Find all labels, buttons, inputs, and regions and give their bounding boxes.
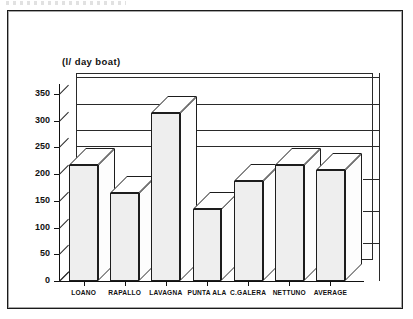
gridline [76,104,374,105]
right-wall-tick [363,104,380,105]
x-axis-line [59,281,364,282]
bar [275,165,304,281]
bar-chart: (l/ day boat) 050100150200250300350 LOAN… [8,11,404,310]
plot-back-wall [76,73,373,260]
x-axis-label: LAVAGNA [136,289,196,296]
x-axis-tick-mark [166,281,167,286]
chart-page: (l/ day boat) 050100150200250300350 LOAN… [0,0,413,319]
y-axis-depth-tick [59,165,69,175]
bar-top-face [316,153,362,170]
chart-title: (l/ day boat) [62,56,121,67]
y-axis-line [59,84,60,282]
x-axis-tick-mark [207,281,208,286]
bar [316,170,345,281]
y-axis-depth-tick [59,112,69,122]
y-axis-depth-tick [59,192,69,202]
bar [69,165,98,281]
x-axis-label: PUNTA ALA [177,289,237,296]
y-axis-tick-label: 100 [16,222,50,232]
bar-side-face [139,176,156,281]
right-wall-tick [363,179,380,180]
bar-top-face [69,148,115,165]
right-wall-tick [363,77,380,78]
bar-side-face [180,96,197,281]
y-axis-tick-mark [54,94,59,95]
y-axis-depth-tick [59,272,69,282]
bar [110,193,139,281]
x-axis-label: RAPALLO [95,289,155,296]
y-axis-tick-label: 0 [16,275,50,285]
x-axis-label: AVERAGE [300,289,360,296]
y-axis-tick-mark [54,121,59,122]
right-wall-tick [363,211,380,212]
right-wall-tick [363,146,380,147]
bar [234,181,263,281]
bar-side-face [304,148,321,281]
y-axis-depth-tick [59,218,69,228]
right-wall [363,73,380,281]
y-axis-tick-label: 350 [16,88,50,98]
bar-side-face [263,164,280,281]
y-axis-tick-label: 250 [16,141,50,151]
y-axis-tick-label: 200 [16,168,50,178]
y-axis-tick-mark [54,281,59,282]
gridline [76,77,374,78]
bar [151,113,180,281]
bar-side-face [221,192,238,281]
x-axis-label: NETTUNO [259,289,319,296]
y-axis-tick-mark [54,174,59,175]
right-wall-edge [379,73,380,281]
bar-top-face [110,176,156,193]
bar-front-face [69,165,98,281]
bar-front-face [316,170,345,281]
x-axis-tick-mark [125,281,126,286]
bar-front-face [193,209,222,281]
y-axis-depth-tick [59,245,69,255]
bar-front-face [275,165,304,281]
bar-front-face [151,113,180,281]
bar-front-face [234,181,263,281]
bar-top-face [275,148,321,165]
y-axis-depth-tick [59,85,69,95]
x-axis-label: LOANO [54,289,114,296]
bar-side-face [98,148,115,281]
y-axis-tick-label: 300 [16,115,50,125]
x-axis-tick-mark [330,281,331,286]
gridline [76,130,374,131]
bar-top-face [234,164,280,181]
bar [193,209,222,281]
y-axis-depth-tick [59,138,69,148]
bar-top-face [151,96,197,113]
bar-side-face [345,153,362,281]
y-axis-tick-label: 50 [16,248,50,258]
y-axis-tick-mark [54,254,59,255]
bar-top-face [193,192,239,209]
bar-front-face [110,193,139,281]
right-wall-tick [363,130,380,131]
y-axis-tick-label: 150 [16,195,50,205]
x-axis-label: C.GALERA [218,289,278,296]
y-axis-tick-mark [54,147,59,148]
y-axis-tick-mark [54,228,59,229]
right-wall-tick [363,243,380,244]
x-axis-tick-mark [289,281,290,286]
floor-depth-edge [59,264,77,282]
x-axis-tick-mark [248,281,249,286]
chart-frame: (l/ day boat) 050100150200250300350 LOAN… [7,10,403,309]
y-axis-tick-mark [54,201,59,202]
x-axis-tick-mark [84,281,85,286]
scan-artifact [6,1,126,5]
gridline [76,146,374,147]
